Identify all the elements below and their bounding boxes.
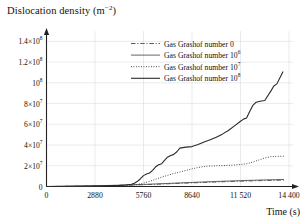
y-tick-mantissa: 4×10 [24, 141, 40, 150]
plot-area [0, 0, 306, 220]
y-tick-label: 8×107 [24, 99, 42, 108]
y-tick-mantissa: 1.4×10 [18, 37, 39, 46]
chart-figure: Dislocation density (m−2) 02×1074×1076×1… [0, 0, 306, 220]
legend-item-0: Gas Grashof number 0 [164, 39, 234, 48]
legend-item-text: Gas Grashof number 10 [164, 62, 238, 71]
series-lines [47, 71, 284, 186]
x-axis-title: Time (s) [266, 206, 300, 217]
x-tick-label: 14 400 [278, 191, 299, 200]
legend-item-3: Gas Grashof number 108 [164, 74, 240, 83]
legend-item-exponent: 7 [238, 61, 241, 67]
legend-item-exponent: 8 [238, 72, 241, 78]
series-line-3 [47, 71, 284, 186]
legend-item-text: Gas Grashof number 10 [164, 51, 238, 60]
y-tick-mantissa: 8×10 [24, 99, 40, 108]
y-tick-exponent: 7 [40, 118, 43, 124]
x-tick-label: 0 [45, 191, 49, 200]
legend-item-text: Gas Grashof number 10 [164, 74, 238, 83]
legend-item-exponent: 6 [238, 49, 241, 55]
legend-item-text: Gas Grashof number 0 [164, 39, 234, 48]
y-tick-mantissa: 6×10 [24, 120, 40, 129]
legend-line-samples [131, 44, 160, 79]
y-tick-label: 6×107 [24, 120, 42, 129]
y-tick-mantissa: 0 [39, 182, 43, 191]
y-tick-exponent: 8 [40, 77, 43, 83]
y-tick-label: 108 [32, 78, 42, 87]
x-tick-label: 2880 [87, 191, 103, 200]
x-tick-label: 11 520 [230, 191, 251, 200]
series-line-1 [47, 179, 284, 186]
y-tick-exponent: 7 [40, 139, 43, 145]
legend-item-2: Gas Grashof number 107 [164, 62, 240, 71]
x-tick-label: 8640 [184, 191, 200, 200]
y-tick-mantissa: 2×10 [24, 161, 40, 170]
y-tick-exponent: 7 [40, 160, 43, 166]
y-tick-label: 1.4×108 [18, 37, 42, 46]
y-tick-label: 2×107 [24, 161, 42, 170]
y-tick-exponent: 8 [40, 35, 43, 41]
series-line-2 [47, 156, 284, 186]
y-tick-label: 4×107 [24, 141, 42, 150]
y-tick-exponent: 7 [40, 98, 43, 104]
y-tick-mantissa: 10 [32, 78, 40, 87]
y-tick-exponent: 8 [40, 56, 43, 62]
y-tick-mantissa: 1.2×10 [18, 58, 39, 67]
y-tick-label: 1.2×108 [18, 58, 42, 67]
y-tick-label: 0 [39, 182, 43, 191]
x-tick-label: 5760 [136, 191, 152, 200]
legend-item-1: Gas Grashof number 106 [164, 51, 240, 60]
